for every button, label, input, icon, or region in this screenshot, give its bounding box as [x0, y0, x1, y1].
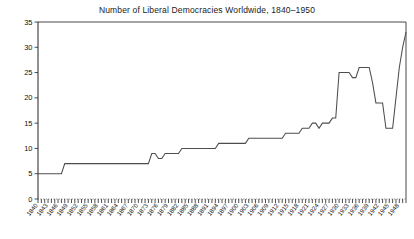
y-tick-label: 5 [28, 169, 32, 178]
plot-frame [38, 22, 406, 199]
y-tick-label: 10 [24, 144, 32, 153]
data-series-line [38, 32, 406, 174]
y-tick-label: 35 [24, 18, 32, 27]
y-tick-label: 25 [24, 68, 32, 77]
line-chart-plot: 0510152025303518401843184618491852185518… [0, 0, 414, 239]
chart-container: Number of Liberal Democracies Worldwide,… [0, 0, 414, 239]
x-tick-label: 1948 [386, 201, 400, 217]
y-tick-label: 15 [24, 119, 32, 128]
y-tick-label: 30 [24, 43, 32, 52]
y-tick-label: 20 [24, 93, 32, 102]
